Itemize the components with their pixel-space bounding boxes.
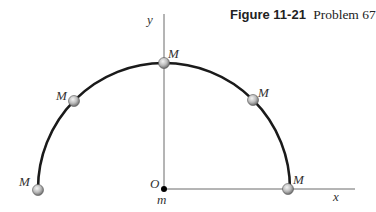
mass-label-right-end: M: [293, 173, 304, 186]
mass-ball-right-end: [283, 184, 294, 195]
mass-ball-upper-right: [248, 95, 259, 106]
x-axis-label: x: [333, 190, 339, 203]
origin-mass-label: m: [157, 193, 166, 206]
figure-title: Problem 67: [313, 7, 376, 22]
figure-caption: Figure 11-21 Problem 67: [230, 7, 376, 23]
mass-ball-left-end: [33, 185, 44, 196]
mass-label-upper-right: M: [258, 86, 269, 99]
mass-label-upper-left: M: [56, 89, 67, 102]
mass-ball-upper-left: [69, 96, 80, 107]
origin-label: O: [150, 177, 159, 190]
y-axis-label: y: [147, 13, 153, 26]
figure-number: Figure 11-21: [230, 7, 306, 22]
mass-label-top: M: [168, 47, 179, 60]
mass-label-left-end: M: [19, 175, 30, 188]
